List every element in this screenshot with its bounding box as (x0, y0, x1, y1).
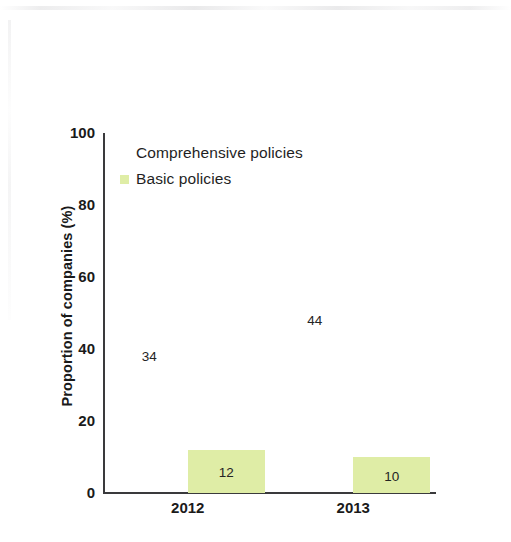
y-tick-label-80: 80 (7, 197, 95, 212)
bar-value-label-2013-comprehensive-policies: 44 (276, 314, 353, 328)
legend-item-comprehensive-policies[interactable]: Comprehensive policies (120, 140, 360, 166)
legend-label-comprehensive-policies: Comprehensive policies (136, 144, 303, 162)
bar-2012-comprehensive-policies (111, 371, 188, 493)
legend-swatch-icon-comprehensive-policies (120, 149, 129, 158)
y-tick-label-60: 60 (7, 269, 95, 284)
x-tick-label-2013: 2013 (293, 500, 413, 515)
bar-value-label-2012-comprehensive-policies: 34 (111, 350, 188, 364)
chart-legend: Comprehensive policiesBasic policies (120, 140, 360, 192)
y-tick-label-100: 100 (7, 125, 95, 140)
y-tick-label-0: 0 (7, 485, 95, 500)
x-tick-label-2012: 2012 (128, 500, 248, 515)
bar-2013-comprehensive-policies (276, 335, 353, 493)
y-tick-label-20: 20 (7, 413, 95, 428)
bar-chart: Proportion of companies (%) 020406080100… (0, 0, 511, 542)
legend-swatch-icon-basic-policies (120, 175, 129, 184)
legend-item-basic-policies[interactable]: Basic policies (120, 166, 360, 192)
y-tick-label-40: 40 (7, 341, 95, 356)
legend-label-basic-policies: Basic policies (136, 170, 231, 188)
bar-value-label-2013-basic-policies: 10 (353, 470, 430, 484)
bar-value-label-2012-basic-policies: 12 (188, 466, 265, 480)
